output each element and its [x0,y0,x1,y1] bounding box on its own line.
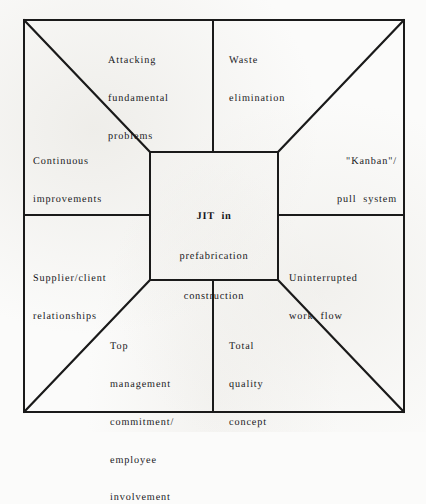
label-kanban-pull-system: "Kanban"/ pull system [337,131,397,232]
label-line: "Kanban"/ [337,156,397,169]
label-line: prefabrication [150,250,278,263]
label-line: management [110,379,174,392]
label-line: Total [229,341,267,354]
label-waste-elimination: Waste elimination [229,30,285,131]
label-line: Supplier/client [33,273,106,286]
label-total-quality-concept: Total quality concept [229,316,267,455]
label-line: concept [229,417,267,430]
label-line: Continuous [33,156,102,169]
label-line: commitment/ [110,417,174,430]
label-line: problems [108,131,169,144]
label-line: Attacking [108,55,169,68]
label-line: Waste [229,55,285,68]
label-line: fundamental [108,93,169,106]
label-line: quality [229,379,267,392]
label-line: Uninterrupted [289,273,358,286]
label-line: relationships [33,311,106,324]
label-line: employee [110,455,174,468]
label-continuous-improvements: Continuous improvements [33,131,102,232]
label-line: construction [150,290,278,303]
label-uninterrupted-work-flow: Uninterrupted work flow [289,248,358,349]
label-line: work flow [289,311,358,324]
label-line: improvements [33,194,102,207]
label-line: pull system [337,194,397,207]
label-top-management-commitment: Top management commitment/ employee invo… [110,316,174,504]
label-jit-center: JIT in prefabrication construction [150,183,278,330]
label-supplier-client-relationships: Supplier/client relationships [33,248,106,349]
label-line: involvement [110,492,174,504]
label-line: Top [110,341,174,354]
label-line: elimination [229,93,285,106]
label-line: JIT in [150,210,278,223]
label-attacking-fundamental-problems: Attacking fundamental problems [108,30,169,169]
